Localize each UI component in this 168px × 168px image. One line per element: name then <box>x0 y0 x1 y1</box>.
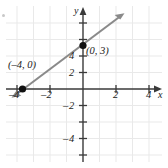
x-tick-label-4: 4 <box>146 90 151 101</box>
coordinate-plane-figure: – 4 – 2 2 4 4 2 – 2 – 4 y x (–4, 0) (0, … <box>0 0 168 168</box>
point-label-x-intercept: (–4, 0) <box>8 60 36 71</box>
x-tick-label-neg4: 4 <box>14 90 19 101</box>
y-tick-label-neg4: 4 <box>69 134 74 145</box>
y-tick-label-4: 4 <box>69 51 74 62</box>
point-marker-x-intercept <box>19 85 26 92</box>
y-tick-label-2: 2 <box>69 68 74 79</box>
y-axis-arrowhead <box>80 7 87 15</box>
y-tick-label-neg4-sign: – <box>63 134 68 145</box>
y-tick-label-neg2-sign: – <box>63 101 68 112</box>
y-tick-label-neg2: 2 <box>69 101 74 112</box>
x-axis-label: x <box>158 90 162 100</box>
x-tick-label-neg2-sign: – <box>41 90 46 101</box>
x-tick-label-neg2: 2 <box>47 90 52 101</box>
y-axis-label: y <box>74 6 78 16</box>
axes <box>6 12 158 162</box>
point-label-y-intercept: (0, 3) <box>86 46 109 57</box>
graph-canvas <box>0 0 168 168</box>
x-tick-label-2: 2 <box>113 90 118 101</box>
